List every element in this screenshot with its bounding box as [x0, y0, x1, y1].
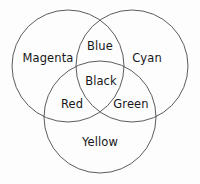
region-label-yellow: Yellow	[82, 137, 118, 149]
region-label-red: Red	[61, 99, 83, 111]
region-label-blue: Blue	[87, 41, 113, 53]
venn-diagram: Magenta Cyan Blue Black Red Green Yellow	[0, 0, 200, 184]
region-label-cyan: Cyan	[132, 53, 162, 65]
region-label-magenta: Magenta	[23, 53, 74, 65]
venn-circles-group	[0, 0, 200, 184]
region-label-green: Green	[113, 99, 148, 111]
region-label-black: Black	[85, 76, 117, 88]
